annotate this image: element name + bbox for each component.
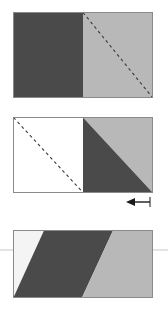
- panel-2-regions: [14, 118, 153, 193]
- panel-3-regions: [14, 231, 153, 298]
- panel-1-regions: [14, 13, 153, 98]
- shear-transformation-figure: [0, 0, 168, 309]
- panel-2-rectangle-with-diagonal-split-right: [13, 117, 153, 193]
- left-pointing-arrow: [125, 194, 153, 212]
- arrow-head-icon: [126, 198, 135, 206]
- panel-3-sheared-parallelograms: [13, 230, 153, 298]
- left-half-dark: [14, 13, 84, 98]
- panel-1-rectangle-split-vertically: [13, 12, 153, 98]
